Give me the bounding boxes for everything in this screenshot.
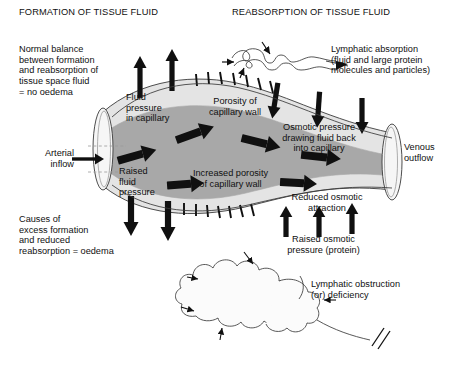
venous-end-opening (382, 124, 402, 200)
lymphatic-obstruction-cloud (175, 260, 319, 332)
increased-porosity-label: Increased porosity of capillary wall (168, 168, 293, 189)
causes-of-oedema-note: Causes of excess formation and reduced r… (19, 214, 114, 257)
title-formation: FORMATION OF TISSUE FLUID (19, 7, 158, 18)
arterial-end-opening (93, 108, 113, 190)
lymphatic-obstruction-label: Lymphatic obstruction (or) deficiency (311, 279, 400, 300)
cloud-tail (317, 320, 370, 340)
fluid-pressure-in-capillary-label: Fluid pressure in capillary (126, 92, 169, 124)
arterial-inflow-label: Arterial inflow (12, 148, 74, 169)
title-reabsorption: REABSORPTION OF TISSUE FLUID (232, 7, 390, 18)
normal-balance-note: Normal balance between formation and rea… (19, 44, 98, 97)
lymphatic-absorption-label: Lymphatic absorption (fluid and large pr… (331, 44, 430, 76)
porosity-of-capillary-wall-label: Porosity of capillary wall (185, 96, 285, 117)
raised-fluid-pressure-label: Raised fluid pressure (119, 166, 155, 198)
diagram-page: FORMATION OF TISSUE FLUID REABSORPTION O… (0, 0, 455, 374)
break-marks (372, 328, 390, 349)
reduced-osmotic-attraction-label: Reduced osmotic attraction (272, 192, 382, 213)
raised-osmotic-pressure-label: Raised osmotic pressure (protein) (261, 234, 386, 255)
osmotic-pressure-drawing-label: Osmotic pressure drawing fluid back into… (259, 122, 379, 154)
venous-outflow-label: Venous outflow (404, 142, 435, 163)
